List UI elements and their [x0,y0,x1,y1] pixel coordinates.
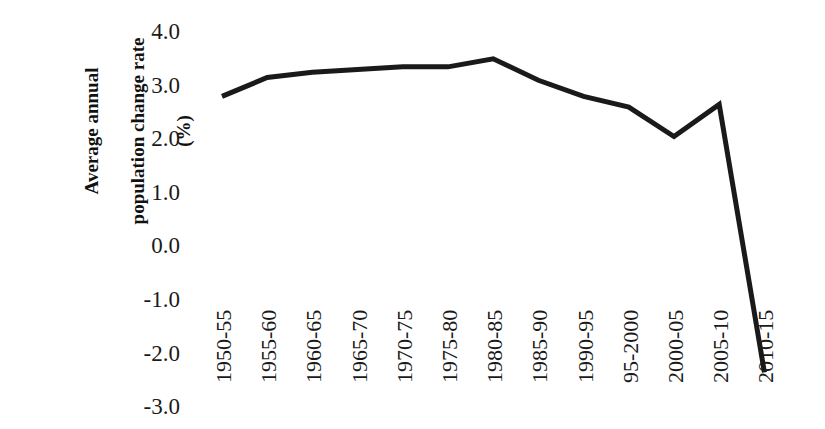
x-axis-tick-labels: 1950-551955-601960-651965-701970-751975-… [0,0,825,429]
x-tick-label: 1965-70 [349,310,371,383]
x-tick-label: 1990-95 [575,310,597,383]
x-tick-label: 1985-90 [529,310,551,383]
x-tick-label: 1970-75 [394,310,416,383]
x-tick-label: 2005-10 [710,310,732,383]
x-tick-label: 95-2000 [620,310,642,383]
x-tick-label: 1950-55 [213,310,235,383]
chart-figure: Average annual population change rate (%… [0,0,825,429]
x-tick-label: 1955-60 [258,310,280,383]
x-tick-label: 1975-80 [439,310,461,383]
x-tick-label: 1980-85 [484,310,506,383]
x-tick-label: 1960-65 [303,310,325,383]
x-tick-label: 2000-05 [665,310,687,383]
x-tick-label: 2010-15 [755,310,777,383]
